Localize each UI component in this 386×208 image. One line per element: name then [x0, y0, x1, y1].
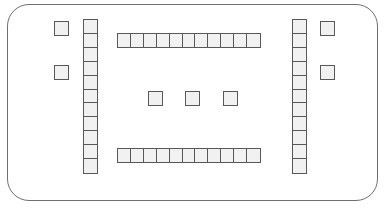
isolated-square-right-upper[interactable]: [320, 21, 335, 36]
isolated-square-right-lower[interactable]: [320, 65, 335, 80]
cell-segment[interactable]: [292, 158, 307, 174]
isolated-square-center-right[interactable]: [223, 91, 238, 106]
horizontal-bar-bottom[interactable]: [117, 148, 261, 163]
vertical-bar-right[interactable]: [292, 19, 307, 174]
cell-segment[interactable]: [246, 33, 261, 48]
cell-segment[interactable]: [83, 158, 98, 174]
cell-square[interactable]: [320, 21, 335, 36]
horizontal-bar-top[interactable]: [117, 33, 261, 48]
cell-square[interactable]: [223, 91, 238, 106]
isolated-square-center-middle[interactable]: [185, 91, 200, 106]
cell-square[interactable]: [148, 91, 163, 106]
cell-square[interactable]: [185, 91, 200, 106]
cell-square[interactable]: [320, 65, 335, 80]
isolated-square-left-lower[interactable]: [54, 65, 69, 80]
cell-square[interactable]: [54, 21, 69, 36]
cell-square[interactable]: [54, 65, 69, 80]
diagram-canvas: [0, 0, 386, 208]
isolated-square-center-left[interactable]: [148, 91, 163, 106]
vertical-bar-left[interactable]: [83, 19, 98, 174]
isolated-square-left-upper[interactable]: [54, 21, 69, 36]
cell-segment[interactable]: [246, 148, 261, 163]
